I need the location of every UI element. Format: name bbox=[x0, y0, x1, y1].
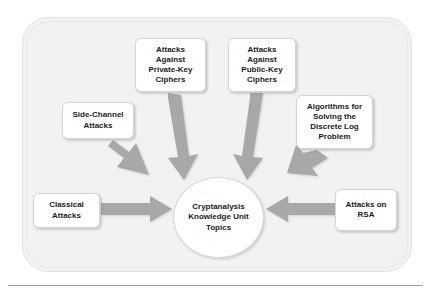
node-side-channel-attacks[interactable]: Side-Channel Attacks bbox=[62, 102, 134, 139]
node-attacks-private-key[interactable]: Attacks Against Private-Key Ciphers bbox=[135, 38, 206, 92]
arrow-rsa-to-hub bbox=[266, 196, 336, 222]
node-algorithms-discrete-log[interactable]: Algorithms for Solving the Discrete Log … bbox=[296, 95, 373, 149]
node-attacks-on-rsa[interactable]: Attacks on RSA bbox=[335, 189, 397, 231]
arrow-algorithms-dlp-to-hub bbox=[287, 145, 328, 176]
footer-divider bbox=[8, 285, 423, 286]
arrow-side-channel-to-hub bbox=[108, 140, 149, 175]
arrow-classical-to-hub bbox=[101, 196, 172, 222]
arrow-public-key-to-hub bbox=[233, 93, 263, 180]
node-classical-attacks[interactable]: Classical Attacks bbox=[33, 193, 100, 228]
node-attacks-public-key[interactable]: Attacks Against Public-Key Ciphers bbox=[228, 38, 296, 92]
arrow-private-key-to-hub bbox=[168, 93, 198, 180]
diagram-page: Attacks Against Private-Key Ciphers Atta… bbox=[0, 0, 431, 292]
node-hub-cryptanalysis-topics[interactable]: Cryptanalysis Knowledge Unit Topics bbox=[173, 177, 264, 258]
